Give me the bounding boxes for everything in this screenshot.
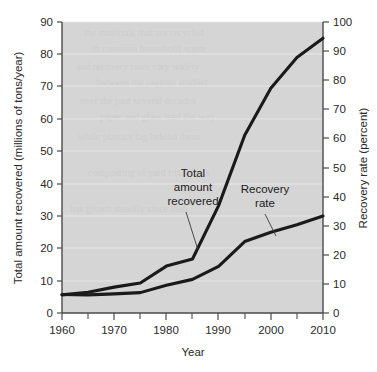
x-tick-label-1960: 1960 bbox=[49, 324, 75, 336]
y-tick-label-50: 50 bbox=[40, 145, 53, 157]
y2-tick-label-10: 10 bbox=[333, 278, 346, 290]
y2-tick-label-90: 90 bbox=[333, 45, 346, 57]
svg-text:in common household waste: in common household waste bbox=[92, 43, 207, 54]
y2-tick-label-60: 60 bbox=[333, 132, 346, 144]
y-axis-right-title: Recovery rate (percent) bbox=[357, 107, 369, 228]
annotation-total-line-1: Total bbox=[181, 167, 205, 179]
svg-text:over the past several decades: over the past several decades bbox=[80, 95, 196, 106]
x-axis-title: Year bbox=[181, 346, 204, 358]
annotation-total-line-2: amount bbox=[174, 181, 213, 193]
svg-text:the materials that are recycle: the materials that are recycled bbox=[84, 27, 204, 38]
y-tick-label-10: 10 bbox=[40, 275, 53, 287]
y2-tick-label-40: 40 bbox=[333, 191, 346, 203]
x-tick-label-2010: 2010 bbox=[310, 324, 336, 336]
annotation-total-line-3: recovered bbox=[167, 195, 218, 207]
chart-figure: the materials that are recycled in commo… bbox=[0, 0, 377, 372]
x-tick-label-1980: 1980 bbox=[153, 324, 179, 336]
x-tick-label-1970: 1970 bbox=[101, 324, 127, 336]
y2-tick-label-30: 30 bbox=[333, 220, 346, 232]
chart-canvas: the materials that are recycled in commo… bbox=[0, 0, 377, 372]
y-tick-label-0: 0 bbox=[47, 307, 53, 319]
y-tick-label-80: 80 bbox=[40, 48, 53, 60]
y2-tick-label-70: 70 bbox=[333, 103, 346, 115]
y-tick-label-30: 30 bbox=[40, 210, 53, 222]
svg-text:while plastics lag behind them: while plastics lag behind them bbox=[78, 131, 200, 142]
y-axis-right: 100 90 80 70 60 50 40 30 20 10 0 Recover… bbox=[323, 16, 369, 319]
svg-text:and recovery rates vary widely: and recovery rates vary widely bbox=[76, 61, 199, 72]
x-tick-label-2000: 2000 bbox=[258, 324, 284, 336]
y2-tick-label-100: 100 bbox=[333, 16, 352, 28]
y2-tick-label-80: 80 bbox=[333, 74, 346, 86]
y-tick-label-20: 20 bbox=[40, 242, 53, 254]
y-tick-label-70: 70 bbox=[40, 80, 53, 92]
x-axis: 1960 1970 1980 1990 2000 2010 Year bbox=[49, 313, 336, 358]
svg-text:paper and glass lead the way: paper and glass lead the way bbox=[100, 111, 215, 122]
y2-tick-label-50: 50 bbox=[333, 162, 346, 174]
y2-tick-label-20: 20 bbox=[333, 249, 346, 261]
y-axis-left-title: Total amount recovered (millions of tons… bbox=[12, 52, 24, 285]
y-axis-left: 90 80 70 60 50 40 30 20 10 0 Total amoun… bbox=[12, 16, 62, 319]
y2-tick-label-0: 0 bbox=[333, 307, 339, 319]
y-tick-label-90: 90 bbox=[40, 16, 53, 28]
annotation-recovery-line-2: rate bbox=[255, 197, 275, 209]
x-tick-label-1990: 1990 bbox=[205, 324, 231, 336]
y-tick-label-60: 60 bbox=[40, 113, 53, 125]
annotation-recovery-line-1: Recovery bbox=[241, 183, 290, 195]
y-tick-label-40: 40 bbox=[40, 178, 53, 190]
